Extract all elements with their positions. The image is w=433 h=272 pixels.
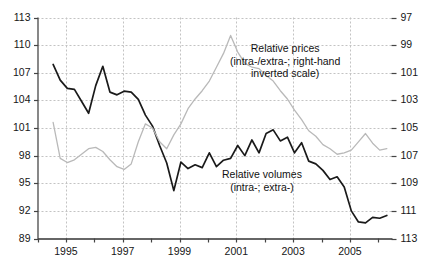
relative-prices-annotation-line: (intra-/extra-; right-hand (230, 55, 340, 68)
x-axis-tick-label: 1997 (101, 245, 145, 257)
y-axis-left-tick-label: 92 (0, 204, 31, 216)
y-axis-left-tick-label: 89 (0, 232, 31, 244)
x-axis-tick-label: 2003 (271, 245, 315, 257)
y-axis-left-tick-label: 95 (0, 176, 31, 188)
y-axis-right-tick-label: 105 (401, 121, 419, 133)
y-axis-left-tick-label: 110 (0, 38, 31, 50)
y-axis-right-tick-label: 101 (401, 66, 419, 78)
relative-volumes-annotation-line: (intra-; extra-) (222, 181, 302, 194)
y-axis-right-tick-label: 111 (401, 204, 417, 216)
y-axis-right-tick-label: 99 (401, 38, 413, 50)
x-axis-tick-label: 2001 (214, 245, 258, 257)
y-axis-right-tick-label: 109 (401, 176, 419, 188)
x-axis-tick-label: 2005 (328, 245, 372, 257)
relative-prices-annotation: Relative prices(intra-/extra-; right-han… (230, 42, 340, 80)
relative-prices-annotation-line: inverted scale) (230, 67, 340, 80)
x-axis-tick-label: 1995 (44, 245, 88, 257)
x-axis-tick-label: 1999 (158, 245, 202, 257)
relative-volumes-annotation-line: Relative volumes (222, 168, 302, 181)
y-axis-right-tick-label: 113 (401, 232, 418, 244)
relative-prices-annotation-line: Relative prices (230, 42, 340, 55)
chart-canvas (0, 0, 433, 272)
y-axis-right-tick-label: 97 (401, 11, 413, 23)
y-axis-left-tick-label: 104 (0, 93, 31, 105)
y-axis-right-tick-label: 107 (401, 149, 419, 161)
y-axis-right-tick-label: 103 (401, 93, 419, 105)
relative-volumes-annotation: Relative volumes(intra-; extra-) (222, 168, 302, 193)
y-axis-left-tick-label: 107 (0, 66, 31, 78)
y-axis-left-tick-label: 113 (0, 11, 31, 23)
series-relative-volumes (53, 64, 387, 222)
chart-container: 1131101071041019895928997991011031051071… (0, 0, 433, 272)
y-axis-left-tick-label: 98 (0, 149, 31, 161)
y-axis-left-tick-label: 101 (0, 121, 31, 133)
